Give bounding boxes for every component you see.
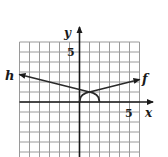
x-axis-label: x <box>144 106 153 120</box>
coordinate-plane: y 5 5 x f h <box>0 0 168 157</box>
y-axis-label: y <box>63 26 72 40</box>
y-tick-label-5: 5 <box>67 46 75 59</box>
curve-f-label: f <box>141 71 150 86</box>
x-tick-label-5: 5 <box>125 107 133 120</box>
curve-h-label: h <box>5 68 14 83</box>
